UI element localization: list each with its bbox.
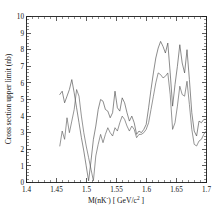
y-axis-title: Cross section upper limit (nb)	[4, 53, 13, 144]
y-tick-label: 6	[20, 80, 24, 88]
x-axis-title: M(nK-) [ GeV/c2 ]	[88, 195, 144, 205]
y-tick-label: 9	[20, 30, 24, 38]
y-tick-label: 3	[20, 129, 24, 137]
y-tick-label: 4	[20, 113, 24, 121]
x-tick-label: 1.65	[170, 186, 183, 194]
x-tick-label: 1.7	[202, 186, 211, 194]
y-tick-label: 0	[20, 179, 24, 187]
y-tick-label: 8	[20, 46, 24, 54]
y-tick-label: 10	[17, 13, 25, 21]
y-tick-label: 2	[20, 146, 24, 154]
x-tick-label: 1.6	[142, 186, 151, 194]
cross-section-upper-limit-plot: 1.41.451.51.551.61.651.7 012345678910 M(…	[0, 0, 218, 215]
y-tick-label: 7	[20, 63, 24, 71]
y-tick-label: 5	[20, 96, 24, 104]
x-tick-label: 1.55	[110, 186, 123, 194]
x-tick-label: 1.5	[82, 186, 91, 194]
y-tick-label: 1	[20, 163, 24, 171]
x-tick-label: 1.4	[22, 186, 31, 194]
chart-figure: 1.41.451.51.551.61.651.7 012345678910 M(…	[0, 0, 218, 215]
x-tick-label: 1.45	[50, 186, 63, 194]
